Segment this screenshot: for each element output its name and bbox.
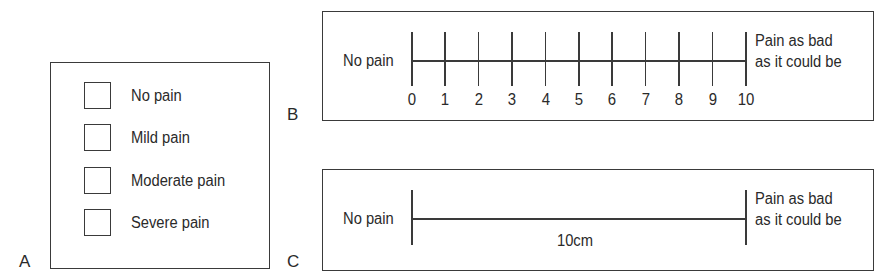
panel-b-tick-7[interactable] <box>645 32 647 86</box>
panel-b-tick-2[interactable] <box>478 32 480 86</box>
panel-b-tick-8[interactable] <box>678 32 680 86</box>
panel-b-letter: B <box>287 106 298 123</box>
panel-b-tick-label: 10 <box>733 91 759 108</box>
panel-c-right-anchor-line2: as it could be <box>755 209 842 230</box>
checkbox-moderate-pain[interactable] <box>84 167 111 194</box>
option-label-moderate-pain: Moderate pain <box>131 173 225 189</box>
panel-b-tick-label: 5 <box>566 91 592 108</box>
panel-b-tick-3[interactable] <box>511 32 513 86</box>
panel-b-tick-label: 3 <box>499 91 525 108</box>
panel-b-tick-label: 7 <box>633 91 659 108</box>
option-label-mild-pain: Mild pain <box>131 130 190 146</box>
panel-b-right-anchor-line1: Pain as bad <box>755 30 842 51</box>
panel-c-letter: C <box>287 253 299 270</box>
option-label-no-pain: No pain <box>131 88 182 104</box>
panel-c-right-anchor: Pain as bad as it could be <box>755 188 842 230</box>
panel-c-right-anchor-line1: Pain as bad <box>755 188 842 209</box>
panel-b-tick-label: 2 <box>466 91 492 108</box>
panel-b-tick-label: 0 <box>399 91 425 108</box>
panel-b-tick-label: 4 <box>532 91 558 108</box>
panel-b-tick-4[interactable] <box>545 32 547 86</box>
panel-b-tick-6[interactable] <box>611 32 613 86</box>
checkbox-severe-pain[interactable] <box>84 209 111 236</box>
panel-b-left-anchor: No pain <box>343 53 394 69</box>
panel-c-left-anchor: No pain <box>343 211 394 227</box>
panel-b-tick-label: 8 <box>666 91 692 108</box>
panel-b-tick-label: 9 <box>699 91 725 108</box>
panel-b-tick-label: 6 <box>599 91 625 108</box>
panel-b-right-anchor: Pain as bad as it could be <box>755 30 842 72</box>
panel-b-scale-line <box>412 60 747 62</box>
panel-c-scale-line[interactable] <box>412 218 746 220</box>
option-label-severe-pain: Severe pain <box>131 215 210 231</box>
panel-b-tick-5[interactable] <box>578 32 580 86</box>
panel-b-tick-0[interactable] <box>411 32 413 86</box>
panel-b-tick-10[interactable] <box>745 32 747 86</box>
panel-b-right-anchor-line2: as it could be <box>755 51 842 72</box>
panel-c-right-endpoint <box>745 190 747 245</box>
panel-c-length-label: 10cm <box>557 233 593 249</box>
checkbox-no-pain[interactable] <box>84 82 111 109</box>
panel-b-tick-9[interactable] <box>712 32 714 86</box>
panel-b-tick-label: 1 <box>432 91 458 108</box>
checkbox-mild-pain[interactable] <box>84 124 111 151</box>
panel-b-tick-1[interactable] <box>444 32 446 86</box>
panel-a-letter: A <box>19 253 30 270</box>
